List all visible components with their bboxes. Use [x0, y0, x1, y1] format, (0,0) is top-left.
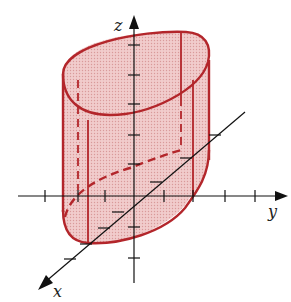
y-axis-arrow-icon [275, 191, 288, 201]
cylinder-diagram: z y x [0, 0, 291, 302]
y-axis-label: y [267, 202, 278, 221]
z-axis-arrow-icon [129, 15, 139, 29]
z-axis-label: z [113, 16, 123, 35]
x-axis-label: x [53, 282, 62, 301]
